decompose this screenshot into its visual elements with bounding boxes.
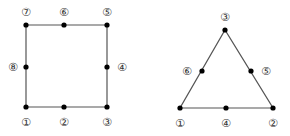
tri-edges [180,30,273,108]
tri-node-1-dot [177,105,182,110]
tri-node-1-label: ① [175,117,185,130]
quad-node-8-dot [23,64,28,69]
quad-node-5-label: ⑤ [102,6,112,19]
quad-element: ①②③④⑤⑥⑦⑧ [8,6,127,129]
quad-node-3-dot [104,104,109,109]
quad-node-7-dot [23,22,28,27]
tri-node-4-dot [223,105,228,110]
quad-node-2-dot [61,104,66,109]
quad-node-4-label: ④ [117,61,127,74]
quad-node-1-dot [23,104,28,109]
tri-element: ①②③④⑤⑥ [175,11,278,130]
quad-node-2-label: ② [59,116,69,129]
tri-node-4-label: ④ [221,117,231,130]
quad-node-1-label: ① [21,116,31,129]
quad-node-8-label: ⑧ [8,61,18,74]
tri-node-3-label: ③ [220,11,230,24]
tri-node-5-label: ⑤ [261,65,271,78]
quad-node-3-label: ③ [102,116,112,129]
tri-node-5-dot [248,68,253,73]
tri-node-6-label: ⑥ [182,65,192,78]
quad-node-4-dot [104,64,109,69]
tri-node-2-label: ② [268,117,278,130]
tri-node-3-dot [222,27,227,32]
tri-node-6-dot [199,68,204,73]
quad-node-6-dot [61,22,66,27]
quad-edges [26,25,107,107]
element-diagram: ①②③④⑤⑥⑦⑧ ①②③④⑤⑥ [0,0,290,136]
tri-node-2-dot [270,105,275,110]
quad-node-6-label: ⑥ [59,6,69,19]
quad-node-7-label: ⑦ [21,6,31,19]
quad-node-5-dot [104,22,109,27]
